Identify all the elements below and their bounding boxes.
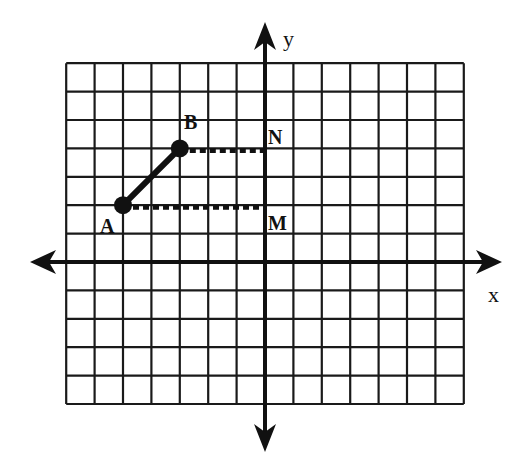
y-axis-label: y [283, 28, 294, 50]
x-axis-label: x [488, 284, 499, 306]
point-label-a: A [100, 216, 114, 236]
axes [30, 22, 502, 452]
point-label-m: M [268, 213, 287, 233]
coordinate-plane [0, 0, 530, 473]
point-b [171, 139, 189, 157]
point-label-n: N [268, 127, 282, 147]
point-label-b: B [184, 112, 197, 132]
point-a [114, 196, 132, 214]
